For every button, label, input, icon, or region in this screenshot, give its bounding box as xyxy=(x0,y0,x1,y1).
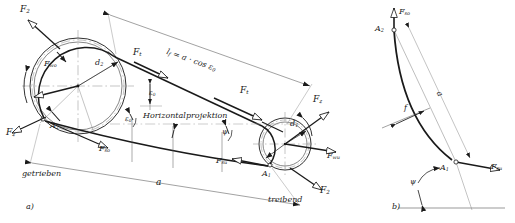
panel-b-group xyxy=(382,8,505,210)
label-force-ft-mid: Ft xyxy=(240,86,249,96)
belt-spans xyxy=(38,48,275,166)
label-angle-epsilon-center: ε0 xyxy=(149,90,156,97)
panel-b-point-a2-marker xyxy=(392,28,396,32)
label-point-a1: A1 xyxy=(262,170,271,178)
panel-b-label-point-a2: A2 xyxy=(375,25,384,33)
angle-arc-epsilon-upper xyxy=(133,118,136,127)
caption-panel-b: b) xyxy=(392,203,400,211)
panel-b-label-angle-psi: ψ xyxy=(410,178,416,186)
center-distance-extension-left xyxy=(30,124,40,164)
force-f2-small-pulley-arrow xyxy=(290,168,322,190)
force-ft-upper-span-arrow xyxy=(134,62,168,78)
force-fsu-arrow xyxy=(232,159,268,166)
panel-b-angle-arc xyxy=(418,168,440,183)
belt-drive-force-diagram: F2 Fwo Fz Fso d2 A2 Ft Ft lf = a · cos ε… xyxy=(0,0,515,223)
diagram-vector-layer xyxy=(0,0,515,223)
label-force-fso: Fso xyxy=(99,145,110,153)
panel-b-label-sag-f: f xyxy=(404,104,407,112)
caption-panel-a: a) xyxy=(26,203,34,211)
belt-direction-tick-lower xyxy=(52,112,60,121)
label-force-f2-small: F2 xyxy=(320,186,330,196)
force-fz-bottom-left-arrow xyxy=(12,117,46,133)
panel-b-label-point-a1: A1 xyxy=(440,164,449,172)
force-fwo-arrow xyxy=(34,86,78,97)
panel-b-belt-catenary xyxy=(394,30,452,160)
label-angle-epsilon-upper: ε0 xyxy=(125,116,132,123)
label-force-f2-top-left: F2 xyxy=(20,5,30,15)
panel-b-angle-tick xyxy=(418,190,422,205)
label-driven-pulley: getrieben xyxy=(22,170,61,178)
large-pulley-rotation-arc xyxy=(24,72,27,103)
label-force-fsu: Fsu xyxy=(216,157,227,165)
label-diameter-d2: d2 xyxy=(95,59,103,67)
free-length-extension-left xyxy=(108,13,116,54)
free-length-extension-right xyxy=(287,84,312,124)
panel-b-chord-line xyxy=(394,30,456,162)
label-point-a2: A2 xyxy=(50,122,59,130)
panel-b-label-force-fsu: Fsu xyxy=(491,163,502,171)
label-diameter-d1: d1 xyxy=(290,120,298,128)
center-distance-dimension-line xyxy=(32,163,300,205)
force-vectors-large-pulley xyxy=(12,20,108,148)
label-horizontal-projection: Horizontalprojektion xyxy=(143,112,227,120)
panel-b-chord-extension xyxy=(456,162,472,210)
label-center-distance-a: a xyxy=(156,178,161,187)
panel-b-point-a1-marker xyxy=(454,160,458,164)
large-pulley-radius-lower xyxy=(78,86,94,133)
panel-b-label-force-fso: Fso xyxy=(399,8,410,16)
label-force-ft-upper: Ft xyxy=(133,48,142,58)
label-driving-pulley: treibend xyxy=(268,196,302,204)
label-angle-psi: ψ xyxy=(222,128,228,136)
force-vectors-small-pulley xyxy=(232,112,336,190)
label-force-fz-bottom-left: Fz xyxy=(6,128,15,138)
force-f2-top-left-arrow xyxy=(28,20,60,49)
label-force-fwo: Fwo xyxy=(44,60,57,68)
label-force-fz-small: Fz xyxy=(313,95,322,105)
angle-arc-psi xyxy=(228,130,232,141)
label-force-fwu: Fwu xyxy=(327,152,340,160)
